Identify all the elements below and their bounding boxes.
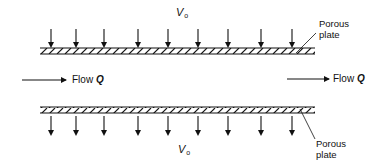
arrowhead-icon	[195, 130, 201, 136]
arrowhead-icon	[258, 130, 264, 136]
arrowhead-icon	[225, 130, 231, 136]
arrowhead-icon	[101, 130, 107, 136]
arrowhead-icon	[48, 42, 54, 48]
top-suction-arrows	[48, 29, 295, 48]
arrowhead-icon	[165, 42, 171, 48]
arrowhead-icon	[258, 42, 264, 48]
arrowhead-icon	[48, 130, 54, 136]
arrowhead-icon	[289, 130, 295, 136]
channel-flow-diagram: Vo Vo Porous plate Porous plate Flow Q F…	[0, 0, 387, 166]
bottom-suction-arrows	[48, 116, 295, 136]
arrowhead-icon	[73, 42, 79, 48]
top-plate-label: Porous plate	[319, 18, 349, 40]
flow-right-label: Flow Q	[333, 73, 365, 84]
top-velocity-label: Vo	[176, 6, 188, 19]
bottom-plate-label: Porous plate	[316, 138, 346, 160]
flow-left-label: Flow Q	[72, 74, 104, 85]
arrowhead-icon	[225, 42, 231, 48]
arrowhead-icon	[73, 130, 79, 136]
arrowhead-icon	[135, 130, 141, 136]
bottom-porous-plate	[40, 107, 315, 113]
arrowhead-icon	[195, 42, 201, 48]
arrowhead-icon	[165, 130, 171, 136]
bottom-velocity-label: Vo	[178, 143, 190, 156]
arrowhead-icon	[289, 42, 295, 48]
arrowhead-icon	[101, 42, 107, 48]
arrowhead-icon	[135, 42, 141, 48]
top-porous-plate	[40, 48, 315, 54]
